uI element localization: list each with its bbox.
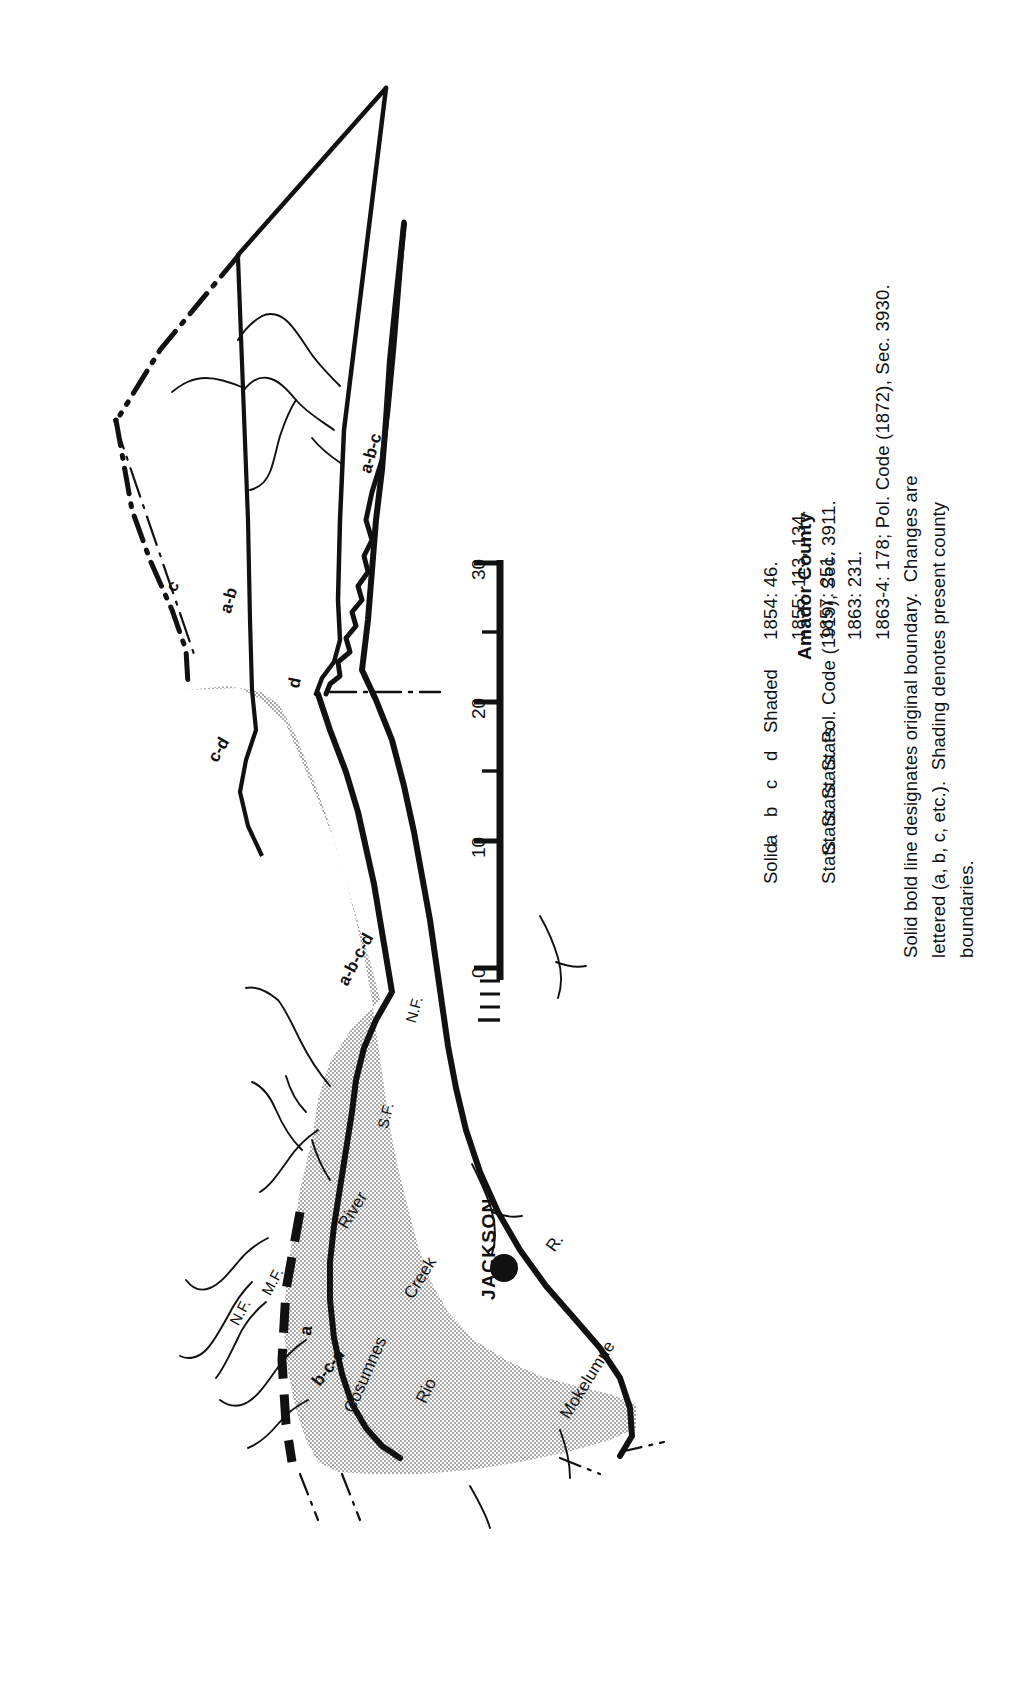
label-c: c	[162, 578, 184, 596]
label-mf-cosumnes: M.F.	[258, 1265, 286, 1298]
label-nf: N.F.	[402, 994, 426, 1024]
label-c-d: c-d	[204, 734, 234, 766]
label-a-b-c-d: a-b-c-d	[334, 930, 378, 989]
label-river: River	[334, 1188, 372, 1232]
label-mokelumne: Mokelumne	[556, 1337, 620, 1422]
label-a: a	[296, 1325, 317, 1337]
label-creek: Creek	[400, 1254, 441, 1303]
label-nf-cosumnes: N.F.	[226, 1296, 254, 1328]
label-cosumnes-river: Cosumnes	[340, 1334, 391, 1416]
label-rio: Rio	[412, 1375, 441, 1407]
label-a-b-c: a-b-c	[356, 431, 386, 476]
label-b-c-d: b-c-d	[308, 1345, 349, 1390]
map-labels: a-b-c a-b d c-d c a-b-c-d b-c-d a Cosumn…	[0, 0, 1022, 1708]
label-sf: S.F.	[374, 1101, 397, 1130]
label-a-b: a-b	[216, 585, 242, 615]
label-r: R.	[542, 1230, 568, 1256]
label-jackson: JACKSON	[478, 1197, 500, 1300]
label-d: d	[284, 676, 306, 690]
map-plate: Amador County Solid a b c d Shaded Stats…	[0, 0, 1022, 1708]
